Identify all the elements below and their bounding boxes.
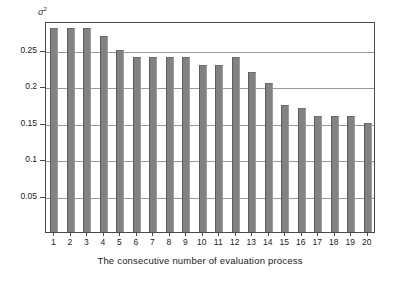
bar bbox=[232, 57, 240, 232]
x-axis-tick-label: 4 bbox=[100, 237, 105, 247]
x-axis-tick-mark bbox=[268, 233, 269, 236]
x-axis-tick-label: 11 bbox=[214, 237, 223, 247]
x-axis-tick-mark bbox=[301, 233, 302, 236]
bar bbox=[116, 50, 124, 232]
x-axis-tick-label: 17 bbox=[313, 237, 322, 247]
bar bbox=[67, 28, 75, 232]
x-axis-tick-mark bbox=[119, 233, 120, 236]
bar bbox=[215, 65, 223, 232]
x-axis-tick-mark bbox=[103, 233, 104, 236]
x-axis-tick-label: 8 bbox=[166, 237, 171, 247]
x-axis-tick-label: 2 bbox=[67, 237, 72, 247]
x-axis-tick-label: 12 bbox=[230, 237, 239, 247]
x-axis-tick-label: 20 bbox=[362, 237, 371, 247]
x-axis-tick-label: 18 bbox=[329, 237, 338, 247]
y-axis-tick-label: 0.2 bbox=[25, 82, 37, 91]
x-axis-tick-mark bbox=[136, 233, 137, 236]
y-axis-tick-mark bbox=[40, 197, 45, 198]
bar bbox=[265, 83, 273, 232]
bar bbox=[281, 105, 289, 232]
y-axis-tick-label: 0.15 bbox=[20, 119, 37, 128]
plot-area bbox=[45, 22, 375, 233]
bar bbox=[83, 28, 91, 232]
x-axis-tick-label: 5 bbox=[117, 237, 122, 247]
x-axis-tick-mark bbox=[185, 233, 186, 236]
x-axis-tick-label: 6 bbox=[133, 237, 138, 247]
x-axis-tick-mark bbox=[70, 233, 71, 236]
bar bbox=[182, 57, 190, 232]
x-axis-tick-mark bbox=[152, 233, 153, 236]
bar bbox=[100, 36, 108, 232]
x-axis-tick-mark bbox=[218, 233, 219, 236]
bar bbox=[331, 116, 339, 232]
y-axis-tick-label: 0.25 bbox=[20, 46, 37, 55]
x-axis-title: The consecutive number of evaluation pro… bbox=[0, 255, 400, 267]
y-axis-tick-mark bbox=[40, 124, 45, 125]
y-axis-tick-mark bbox=[40, 160, 45, 161]
bar bbox=[50, 28, 58, 232]
y-axis-tick-mark bbox=[40, 51, 45, 52]
y-axis-label-exponent: 2 bbox=[43, 6, 46, 12]
x-axis-tick-mark bbox=[317, 233, 318, 236]
y-axis-tick-label: 0.05 bbox=[20, 192, 37, 201]
x-axis-tick-label: 14 bbox=[263, 237, 272, 247]
x-axis-tick-label: 19 bbox=[346, 237, 355, 247]
x-axis-tick-mark bbox=[53, 233, 54, 236]
x-axis-tick-mark bbox=[334, 233, 335, 236]
bar-series bbox=[46, 23, 374, 232]
chart-figure: σ2 0.050.10.150.20.25 123456789101112131… bbox=[0, 0, 400, 285]
x-axis-tick-mark bbox=[350, 233, 351, 236]
x-axis-tick-label: 1 bbox=[51, 237, 56, 247]
bar bbox=[199, 65, 207, 232]
x-axis-tick-label: 15 bbox=[280, 237, 289, 247]
x-axis-tick-mark bbox=[367, 233, 368, 236]
x-axis-tick-mark bbox=[251, 233, 252, 236]
bar bbox=[248, 72, 256, 232]
bar bbox=[314, 116, 322, 232]
x-axis-tick-mark bbox=[202, 233, 203, 236]
bar bbox=[166, 57, 174, 232]
y-axis-tick-mark bbox=[40, 87, 45, 88]
x-axis-tick-mark bbox=[86, 233, 87, 236]
x-axis-tick-mark bbox=[169, 233, 170, 236]
x-axis-tick-mark bbox=[284, 233, 285, 236]
bar bbox=[298, 108, 306, 232]
x-axis-tick-label: 3 bbox=[84, 237, 89, 247]
y-axis-tick-label: 0.1 bbox=[25, 155, 37, 164]
bar bbox=[347, 116, 355, 232]
x-axis-tick-label: 13 bbox=[247, 237, 256, 247]
x-axis-tick-mark bbox=[235, 233, 236, 236]
bar bbox=[133, 57, 141, 232]
bar bbox=[364, 123, 372, 232]
x-axis-tick-label: 7 bbox=[150, 237, 155, 247]
x-axis-tick-label: 9 bbox=[183, 237, 188, 247]
bar bbox=[149, 57, 157, 232]
y-axis-label: σ2 bbox=[38, 4, 47, 18]
x-axis-tick-label: 16 bbox=[296, 237, 305, 247]
x-axis-tick-label: 10 bbox=[197, 237, 206, 247]
